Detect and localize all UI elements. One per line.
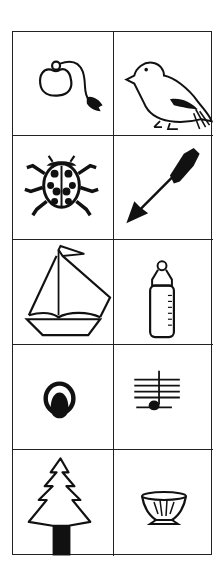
grid-cell-perfume: perfume atomizer	[13, 32, 114, 136]
grid-cell-pine-tree: pine tree	[13, 450, 114, 556]
grid-cell-round-symbol: round symbol	[13, 345, 114, 450]
grid-cell-bowl: bowl	[114, 450, 213, 556]
grid-cell-sailboat: sailboat	[13, 240, 114, 345]
arrow-icon	[114, 136, 213, 239]
picture-grid: perfume atomizer bird ladybug	[12, 31, 212, 555]
bird-icon	[114, 32, 213, 135]
grid-cell-baby-bottle: baby bottle	[114, 240, 213, 345]
pine-tree-icon	[13, 450, 113, 556]
grid-cell-music-note: music note on staff	[114, 345, 213, 450]
grid-cell-ladybug: ladybug	[13, 136, 114, 240]
music-note-icon	[114, 345, 213, 449]
ring-helmet-icon	[13, 345, 113, 449]
grid-cell-bird: bird	[114, 32, 213, 136]
bowl-icon	[114, 450, 213, 556]
baby-bottle-icon	[114, 240, 213, 344]
sailboat-icon	[13, 240, 113, 344]
perfume-atomizer-icon	[13, 32, 113, 135]
ladybug-icon	[13, 136, 113, 239]
grid-cell-arrow: arrow	[114, 136, 213, 240]
